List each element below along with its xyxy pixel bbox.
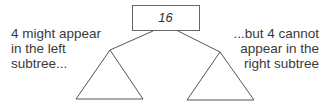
right-annotation-line: ...but 4 cannot — [233, 26, 319, 41]
left-edge — [110, 31, 153, 50]
right-annotation: ...but 4 cannot appear in the right subt… — [233, 26, 319, 71]
right-annotation-line: right subtree — [233, 56, 319, 71]
left-annotation-line: subtree... — [11, 56, 101, 71]
left-annotation-line: 4 might appear — [11, 26, 101, 41]
right-annotation-line: appear in the — [233, 41, 319, 56]
left-annotation-line: in the left — [11, 41, 101, 56]
left-annotation: 4 might appear in the left subtree... — [11, 26, 101, 71]
right-edge — [178, 31, 220, 52]
root-node-value: 16 — [132, 5, 199, 30]
